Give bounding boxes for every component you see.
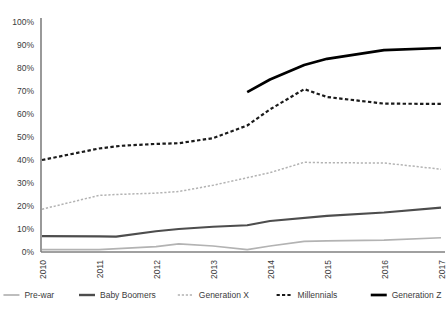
line-chart: 0%10%20%30%40%50%60%70%80%90%100% 201020… (0, 0, 447, 312)
y-tick-label: 80% (17, 63, 34, 73)
x-tick-label: 2012 (152, 260, 162, 279)
legend-label-pre-war: Pre-war (24, 290, 54, 300)
x-tick-label-group: 20102011201220132014201520162017 (38, 260, 447, 279)
series-line-baby-boomers (42, 208, 441, 237)
series-line-millennials (42, 89, 441, 160)
y-tick-label: 70% (17, 86, 34, 96)
legend-item-pre-war[interactable]: Pre-war (3, 290, 54, 300)
legend-label-generation-x: Generation X (199, 290, 249, 300)
x-tick-label: 2015 (323, 260, 333, 279)
y-tick-label: 50% (17, 132, 34, 142)
y-tick-label: 40% (17, 155, 34, 165)
series-line-pre-war (42, 238, 441, 250)
x-tick-label: 2011 (95, 260, 105, 279)
legend-item-baby-boomers[interactable]: Baby Boomers (79, 290, 156, 300)
legend-item-generation-x[interactable]: Generation X (178, 290, 249, 300)
legend-item-millennials[interactable]: Millennials (277, 290, 338, 300)
y-tick-label-group: 0%10%20%30%40%50%60%70%80%90%100% (12, 17, 34, 257)
y-tick-label: 0% (22, 247, 35, 257)
series-line-generation-z (247, 48, 441, 92)
x-tick-label: 2014 (266, 260, 276, 279)
legend-label-baby-boomers: Baby Boomers (100, 290, 156, 300)
y-tick-label: 20% (17, 201, 34, 211)
series-lines (42, 48, 441, 250)
y-tick-label: 90% (17, 40, 34, 50)
x-tick-label: 2010 (38, 260, 48, 279)
legend-label-millennials: Millennials (298, 290, 338, 300)
legend-item-generation-z[interactable]: Generation Z (371, 290, 442, 300)
y-tick-label: 10% (17, 224, 34, 234)
x-tick-label: 2017 (437, 260, 447, 279)
y-tick-label: 30% (17, 178, 34, 188)
y-tick-label: 60% (17, 109, 34, 119)
series-line-generation-x (42, 162, 441, 209)
chart-legend: Pre-warBaby BoomersGeneration XMillennia… (3, 290, 441, 300)
legend-label-generation-z: Generation Z (392, 290, 442, 300)
x-tick-label: 2013 (209, 260, 219, 279)
y-tick-label: 100% (12, 17, 34, 27)
x-tick-label: 2016 (380, 260, 390, 279)
axis-lines (41, 18, 445, 252)
